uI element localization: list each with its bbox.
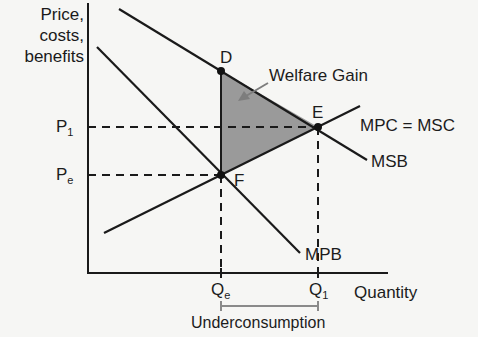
pe-letter: P <box>56 165 67 184</box>
label-f: F <box>234 172 244 189</box>
label-e: E <box>312 104 323 121</box>
welfare-gain-area <box>221 71 318 175</box>
qe-letter: Q <box>211 280 224 299</box>
welfare-gain-label: Welfare Gain <box>269 67 368 84</box>
q1-letter: Q <box>309 280 322 299</box>
y-label-line-1: Price, <box>6 4 84 25</box>
p1-label: P1 <box>56 118 73 138</box>
msb-label: MSB <box>371 153 408 170</box>
x-axis-label: Quantity <box>354 284 417 301</box>
y-label-line-2: costs, <box>6 25 84 46</box>
mpc-msc-label: MPC = MSC <box>360 117 455 134</box>
pe-subscript: e <box>67 174 73 186</box>
qe-subscript: e <box>224 289 230 301</box>
qe-label: Qe <box>211 281 230 301</box>
p1-subscript: 1 <box>67 126 73 138</box>
point-e <box>314 123 322 131</box>
point-f <box>217 171 225 179</box>
label-d: D <box>220 49 232 66</box>
underconsumption-label: Underconsumption <box>191 315 325 331</box>
point-d <box>217 67 225 75</box>
q1-subscript: 1 <box>322 289 328 301</box>
pe-label: Pe <box>56 166 73 186</box>
y-axis-label: Price, costs, benefits <box>6 4 84 67</box>
y-label-line-3: benefits <box>6 46 84 67</box>
p1-letter: P <box>56 117 67 136</box>
q1-label: Q1 <box>309 281 328 301</box>
mpb-label: MPB <box>305 246 342 263</box>
